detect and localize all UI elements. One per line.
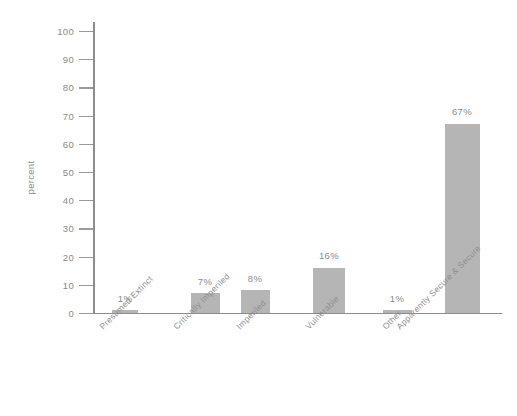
y-tick-60	[79, 144, 93, 145]
y-tick-100	[79, 31, 93, 32]
y-tick-label-100: 100	[34, 27, 74, 37]
y-tick-0	[79, 313, 93, 314]
y-tick-40	[79, 200, 93, 201]
y-tick-label-40: 40	[34, 196, 74, 206]
y-tick-10	[79, 285, 93, 286]
y-tick-label-70: 70	[34, 112, 74, 122]
y-tick-label-30: 30	[34, 224, 74, 234]
y-axis-line	[93, 22, 95, 314]
y-tick-label-60: 60	[34, 140, 74, 150]
y-tick-label-20: 20	[34, 253, 74, 263]
y-tick-label-0: 0	[34, 309, 74, 319]
y-tick-70	[79, 116, 93, 117]
bar-value-apparently-secure-and-secure: 67%	[436, 107, 488, 117]
y-tick-label-90: 90	[34, 55, 74, 65]
bar-chart: percent 0 10 20 30 40 50 60 70 80 90 100…	[0, 0, 517, 416]
y-tick-50	[79, 172, 93, 173]
bar-apparently-secure-and-secure	[445, 124, 480, 313]
y-tick-20	[79, 257, 93, 258]
y-tick-90	[79, 59, 93, 60]
y-tick-label-10: 10	[34, 281, 74, 291]
y-tick-label-80: 80	[34, 83, 74, 93]
y-tick-30	[79, 228, 93, 229]
x-axis-line	[93, 313, 502, 314]
y-tick-label-50: 50	[34, 168, 74, 178]
bar-value-vulnerable: 16%	[303, 251, 355, 261]
y-tick-80	[79, 87, 93, 88]
bar-value-imperiled: 8%	[229, 274, 281, 284]
